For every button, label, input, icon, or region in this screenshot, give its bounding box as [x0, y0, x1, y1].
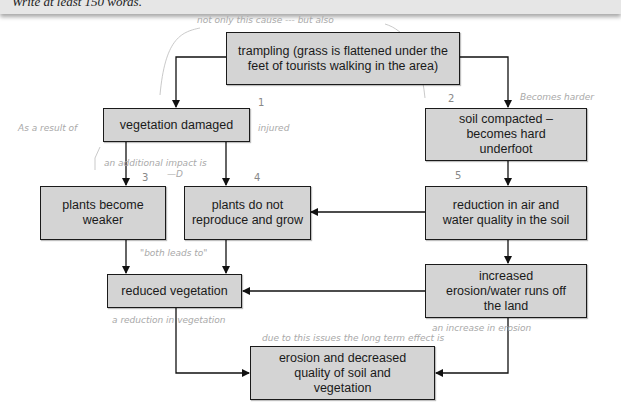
- box-plants-weaker: plants become weaker: [40, 186, 166, 240]
- annotation-additional-impact: an additional impact is: [104, 158, 207, 168]
- annotation-number-3: 3: [142, 172, 148, 183]
- annotation-number-2: 2: [448, 93, 454, 104]
- annotation-reduction-vegetation: a reduction in vegetation: [112, 315, 226, 325]
- annotation-injured: injured: [258, 123, 289, 133]
- box-reduced-vegetation: reduced vegetation: [107, 274, 242, 308]
- box-reduction-air-water: reduction in air and water quality in th…: [425, 186, 587, 240]
- annotation-both-leads-to: "both leads to": [140, 248, 207, 258]
- box-increased-erosion: increased erosion/water runs off the lan…: [425, 264, 587, 318]
- box-plants-not-reproduce: plants do not reproduce and grow: [184, 186, 311, 240]
- annotation-increase-erosion: an increase in erosion: [432, 323, 531, 333]
- box-vegetation-damaged: vegetation damaged: [103, 108, 250, 142]
- box-erosion-decreased-quality: erosion and decreased quality of soil an…: [250, 346, 435, 400]
- annotation-long-term: due to this issues the long term effect …: [262, 333, 444, 343]
- box-soil-compacted: soil compacted – becomes hard underfoot: [425, 108, 587, 161]
- annotation-as-result: As a result of: [18, 123, 77, 133]
- annotation-arrow: —D: [167, 169, 183, 179]
- annotation-number-1: 1: [258, 97, 264, 108]
- annotation-number-4: 4: [254, 172, 260, 183]
- annotation-becomes-harder: Becomes harder: [520, 92, 594, 102]
- annotation-not-only: not only this cause --- but also: [197, 15, 334, 25]
- annotation-number-5: 5: [455, 170, 461, 181]
- box-trampling: trampling (grass is flattened under the …: [226, 32, 460, 85]
